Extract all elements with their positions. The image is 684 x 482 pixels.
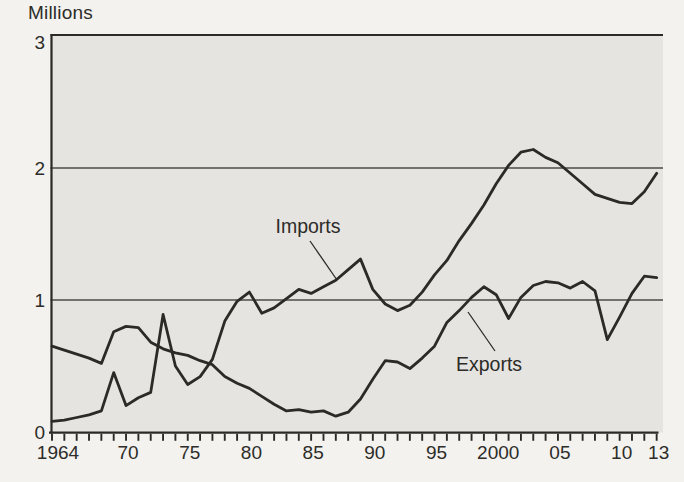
- x-tick-label-1995: 95: [426, 442, 447, 463]
- exports-label: Exports: [456, 353, 522, 375]
- y-tick-label-2: 2: [34, 158, 45, 179]
- y-tick-label-0: 0: [34, 422, 45, 443]
- x-tick-label-1990: 90: [364, 442, 385, 463]
- x-tick-label-1975: 75: [179, 442, 200, 463]
- x-tick-label-2000: 2000: [477, 442, 519, 463]
- y-tick-label-1: 1: [34, 290, 45, 311]
- x-tick-label-1985: 85: [303, 442, 324, 463]
- x-tick-label-2013: 13: [648, 442, 669, 463]
- book-figure-page: Millions 012319647075808590952000051013I…: [0, 0, 684, 482]
- x-tick-label-1964: 1964: [37, 442, 80, 463]
- x-tick-label-1980: 80: [241, 442, 262, 463]
- plot-area: [51, 35, 664, 433]
- imports-label: Imports: [275, 215, 340, 237]
- x-tick-label-2010: 10: [611, 442, 632, 463]
- line-chart: 012319647075808590952000051013ImportsExp…: [0, 0, 684, 482]
- x-tick-label-1970: 70: [117, 442, 138, 463]
- x-tick-label-2005: 05: [549, 442, 570, 463]
- y-tick-label-3: 3: [34, 32, 45, 53]
